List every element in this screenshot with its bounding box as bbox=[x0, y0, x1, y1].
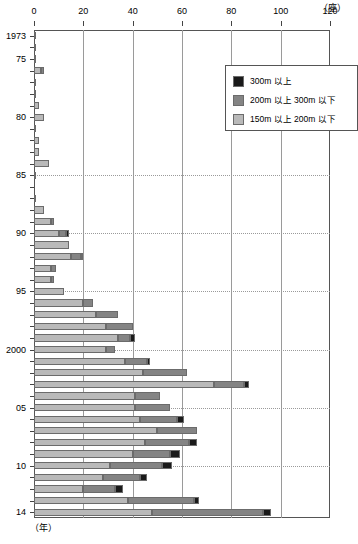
bar-row bbox=[34, 485, 330, 492]
bar-segment bbox=[140, 474, 147, 481]
bar-row bbox=[34, 439, 330, 446]
bar-row bbox=[34, 497, 330, 504]
bar-segment bbox=[66, 230, 68, 237]
bar-segment bbox=[34, 381, 214, 388]
bar-segment bbox=[118, 334, 130, 341]
bar-segment bbox=[34, 346, 106, 353]
bar-segment bbox=[170, 450, 180, 457]
bar-row bbox=[34, 32, 330, 39]
legend-item: 200m 以上 300m 以下 bbox=[233, 91, 357, 110]
y-tick-label-1990: 90 bbox=[16, 228, 26, 238]
x-tick-label-0: 0 bbox=[31, 6, 36, 16]
bar-segment bbox=[244, 381, 249, 388]
legend-label: 150m 以上 200m 以下 bbox=[250, 115, 336, 124]
bar-row bbox=[34, 369, 330, 376]
bar-segment bbox=[140, 416, 177, 423]
y-tick-label-2014: 14 bbox=[16, 507, 26, 517]
bar-segment bbox=[34, 509, 152, 516]
legend-swatch-icon bbox=[233, 114, 244, 125]
bar-segment bbox=[34, 392, 135, 399]
x-tick-40 bbox=[133, 21, 134, 26]
bar-segment bbox=[34, 125, 36, 132]
bar-segment bbox=[34, 172, 36, 179]
bar-row bbox=[34, 55, 330, 62]
y-tick-label-1980: 80 bbox=[16, 112, 26, 122]
legend-item: 300m 以上 bbox=[233, 72, 357, 91]
bar-segment bbox=[34, 497, 128, 504]
bar-segment bbox=[34, 114, 44, 121]
x-tick-100 bbox=[281, 21, 282, 26]
bar-segment bbox=[34, 311, 96, 318]
bar-segment bbox=[59, 230, 66, 237]
bar-segment bbox=[194, 497, 199, 504]
bar-row bbox=[34, 44, 330, 51]
y-tick-label-1973: 1973 bbox=[6, 31, 26, 41]
bar-row bbox=[34, 253, 330, 260]
bar-segment bbox=[34, 90, 36, 97]
bar-segment bbox=[41, 67, 43, 74]
x-tick-0 bbox=[34, 21, 35, 26]
bar-segment bbox=[81, 253, 83, 260]
bar-row bbox=[34, 404, 330, 411]
bar-row bbox=[34, 462, 330, 469]
bar-row bbox=[34, 358, 330, 365]
bar-segment bbox=[157, 427, 196, 434]
bar-segment bbox=[34, 358, 125, 365]
bar-row bbox=[34, 427, 330, 434]
bar-row bbox=[34, 392, 330, 399]
bar-segment bbox=[34, 288, 64, 295]
x-tick-label-100: 100 bbox=[273, 6, 288, 16]
bar-row bbox=[34, 381, 330, 388]
x-tick-20 bbox=[83, 21, 84, 26]
bar-segment bbox=[34, 55, 36, 62]
bar-segment bbox=[34, 404, 135, 411]
bar-segment bbox=[34, 427, 157, 434]
bar-segment bbox=[83, 485, 115, 492]
bar-segment bbox=[71, 253, 81, 260]
bar-row bbox=[34, 137, 330, 144]
bar-segment bbox=[34, 253, 71, 260]
x-tick-label-80: 80 bbox=[226, 6, 236, 16]
bar-segment bbox=[34, 369, 143, 376]
bar-segment bbox=[34, 439, 145, 446]
bar-segment bbox=[103, 474, 140, 481]
bar-segment bbox=[34, 137, 39, 144]
y-tick-label-2005: 05 bbox=[16, 403, 26, 413]
bar-row bbox=[34, 509, 330, 516]
bar-row bbox=[34, 265, 330, 272]
bar-segment bbox=[34, 32, 36, 39]
bar-segment bbox=[34, 206, 44, 213]
bar-segment bbox=[115, 485, 122, 492]
bar-row bbox=[34, 230, 330, 237]
bar-segment bbox=[106, 346, 116, 353]
bar-row bbox=[34, 416, 330, 423]
bar-row bbox=[34, 160, 330, 167]
bar-segment bbox=[34, 334, 118, 341]
bar-segment bbox=[34, 462, 110, 469]
x-tick-label-40: 40 bbox=[128, 6, 138, 16]
bar-segment bbox=[34, 474, 103, 481]
x-tick-label-20: 20 bbox=[78, 6, 88, 16]
bar-row bbox=[34, 346, 330, 353]
bar-row bbox=[34, 241, 330, 248]
y-tick-label-2010: 10 bbox=[16, 461, 26, 471]
bar-row bbox=[34, 450, 330, 457]
legend-label: 200m 以上 300m 以下 bbox=[250, 96, 336, 105]
bar-segment bbox=[34, 299, 83, 306]
bar-segment bbox=[34, 160, 49, 167]
bar-segment bbox=[189, 439, 196, 446]
x-tick-80 bbox=[231, 21, 232, 26]
bar-segment bbox=[135, 404, 170, 411]
y-axis-unit-label: （年） bbox=[30, 521, 57, 534]
bar-segment bbox=[34, 416, 140, 423]
legend-label: 300m 以上 bbox=[250, 77, 292, 86]
bar-row bbox=[34, 334, 330, 341]
bar-row bbox=[34, 276, 330, 283]
bar-segment bbox=[34, 323, 106, 330]
y-tick-label-2000: 2000 bbox=[6, 345, 26, 355]
bar-segment bbox=[34, 218, 51, 225]
y-tick-label-1995: 95 bbox=[16, 286, 26, 296]
bar-row bbox=[34, 195, 330, 202]
legend-item: 150m 以上 200m 以下 bbox=[233, 110, 357, 129]
bar-segment bbox=[152, 509, 263, 516]
